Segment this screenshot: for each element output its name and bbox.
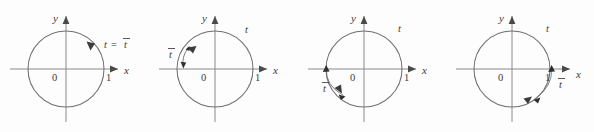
y-axis-arrowhead [212,16,219,24]
t-label: t [398,23,402,34]
reference-angle-marker-head-lower [181,62,187,69]
unit-circle-panel-quadrant-3: y x 0 1 t t [298,0,447,132]
y-axis-arrowhead [509,16,516,24]
origin-label: 0 [498,72,503,83]
x-axis-label: x [272,64,278,76]
equals-sign: = [111,39,117,50]
origin-label: 0 [201,72,206,83]
t-bar-label: t [124,39,128,50]
y-axis-arrowhead [63,16,70,24]
unit-circle-panel-quadrant-2: y x 0 1 t t [149,0,298,132]
origin-label: 0 [350,72,355,83]
x-axis-arrowhead [562,66,570,73]
t-bar-label: t [169,49,173,60]
reference-angle-marker-head-lower [534,98,541,104]
unit-label: 1 [545,72,550,83]
reference-angle-figure: y x 0 1 t = t y x 0 1 t [0,0,594,132]
origin-label: 0 [52,72,57,83]
t-label: t [245,24,249,35]
y-axis-arrowhead [361,16,368,24]
x-axis-label: x [575,68,581,80]
t-bar-label: t [559,79,563,90]
y-axis-label: y [201,12,207,24]
unit-label: 1 [106,72,111,83]
unit-label: 1 [404,72,409,83]
y-axis-label: y [350,12,356,24]
y-axis-label: y [498,12,504,24]
unit-circle-panel-quadrant-4: y x 0 1 t t [446,0,594,132]
t-label: t [104,39,108,50]
y-axis-label: y [52,12,58,24]
unit-circle-panel-quadrant-1: y x 0 1 t = t [0,0,149,132]
x-axis-label: x [123,64,129,76]
terminal-side-arrowhead [524,97,533,105]
x-axis-label: x [421,64,427,76]
reference-angle-marker-head-lower [339,94,346,100]
t-bar-label: t [323,83,327,94]
unit-label: 1 [255,72,260,83]
t-label: t [546,23,550,34]
